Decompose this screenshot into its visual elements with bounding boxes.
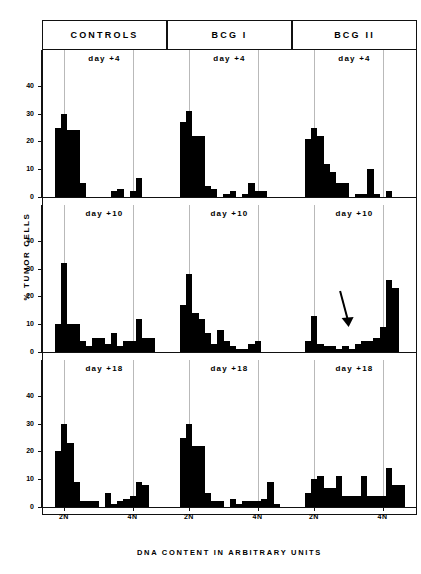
x-axis-label: DNA CONTENT IN ARBITRARY UNITS [42, 548, 417, 557]
panel-bcg-i-18: day +18 [167, 360, 292, 515]
x-tick-label: 2N [304, 513, 324, 520]
x-tick [189, 507, 190, 511]
histogram-bar [398, 485, 405, 507]
y-tick-label: 20 [18, 292, 34, 299]
y-tick-label: 40 [18, 237, 34, 244]
histogram-bar [230, 191, 237, 197]
x-tick-label: 2N [179, 513, 199, 520]
y-tick-label: 10 [18, 320, 34, 327]
panel-bcg-i-10: day +10 [167, 205, 292, 360]
dna-histogram-figure: % TUMOR CELLS DNA CONTENT IN ARBITRARY U… [0, 0, 421, 574]
x-tick [64, 507, 65, 511]
panel-day-label: day +4 [167, 54, 292, 63]
panel-bcg-ii-4: day +4 [292, 50, 417, 205]
x-tick-label: 4N [373, 513, 393, 520]
y-tick-label: 40 [18, 392, 34, 399]
x-tick-label: 2N [54, 513, 74, 520]
histogram-bar [273, 504, 280, 507]
gridline-4n [258, 50, 259, 197]
y-tick [38, 352, 42, 353]
panel-baseline [167, 352, 292, 353]
panel-baseline [167, 507, 292, 508]
panel-bcg-ii-10: day +10 [292, 205, 417, 360]
y-tick-label: 10 [18, 165, 34, 172]
panel-baseline [292, 197, 417, 198]
gridline-4n [258, 205, 259, 352]
y-tick-label: 0 [18, 193, 34, 200]
panel-day-label: day +18 [292, 364, 417, 373]
y-axis-spine [41, 205, 42, 352]
panel-day-label: day +4 [292, 54, 417, 63]
gridline-4n [133, 50, 134, 197]
x-tick [314, 507, 315, 511]
histogram-bar [211, 189, 218, 197]
panel-day-label: day +10 [167, 209, 292, 218]
y-tick-label: 30 [18, 265, 34, 272]
histogram-bar [117, 189, 124, 197]
histogram-bar [148, 338, 155, 352]
panel-controls-18: day +18 [42, 360, 167, 515]
y-axis-spine [41, 50, 42, 197]
panel-controls-4: day +4 [42, 50, 167, 205]
x-tick-label: 4N [248, 513, 268, 520]
x-tick [383, 507, 384, 511]
histogram-bar [136, 178, 143, 197]
panel-day-label: day +18 [42, 364, 167, 373]
panel-controls-10: day +10 [42, 205, 167, 360]
panel-baseline [42, 352, 167, 353]
gridline-4n [133, 360, 134, 507]
histogram-bar [373, 194, 380, 197]
histogram-bar [142, 485, 149, 507]
histogram-bar [92, 501, 99, 507]
panel-bcg-ii-18: day +18 [292, 360, 417, 515]
y-tick-label: 30 [18, 420, 34, 427]
gridline-4n [258, 360, 259, 507]
x-tick [258, 507, 259, 511]
y-tick-label: 40 [18, 82, 34, 89]
gridline-4n [383, 360, 384, 507]
x-tick-label: 4N [123, 513, 143, 520]
panel-baseline [292, 507, 417, 508]
histogram-bar [255, 341, 262, 352]
gridline-4n [383, 50, 384, 197]
histogram-bar [367, 169, 374, 197]
y-tick-label: 10 [18, 475, 34, 482]
y-tick-label: 20 [18, 447, 34, 454]
y-tick [38, 197, 42, 198]
histogram-bar [342, 183, 349, 197]
y-tick-label: 30 [18, 110, 34, 117]
histogram-bar [261, 191, 268, 197]
y-axis-label: % TUMOR CELLS [22, 187, 31, 327]
panel-day-label: day +4 [42, 54, 167, 63]
histogram-bar [386, 191, 393, 197]
x-tick [133, 507, 134, 511]
panel-day-label: day +18 [167, 364, 292, 373]
histogram-bar [217, 501, 224, 507]
y-tick [38, 507, 42, 508]
y-tick-label: 0 [18, 348, 34, 355]
y-axis-spine [41, 360, 42, 507]
annotation-arrow-icon [292, 205, 417, 360]
panel-baseline [167, 197, 292, 198]
gridline-4n [133, 205, 134, 352]
panel-baseline [42, 197, 167, 198]
y-tick-label: 20 [18, 137, 34, 144]
histogram-bar [80, 183, 87, 197]
y-tick-label: 0 [18, 503, 34, 510]
panel-day-label: day +10 [42, 209, 167, 218]
panel-bcg-i-4: day +4 [167, 50, 292, 205]
panel-baseline [42, 507, 167, 508]
